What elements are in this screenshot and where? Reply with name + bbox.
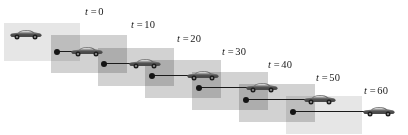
origin-dot-icon (196, 85, 202, 91)
origin-dot-icon (149, 73, 155, 79)
car-icon (362, 105, 396, 118)
car-icon (303, 93, 337, 106)
equals-sign: = (135, 19, 144, 30)
equals-sign: = (272, 59, 281, 70)
car-icon (9, 28, 43, 41)
time-label: t=20 (177, 33, 201, 44)
displacement-measure (243, 96, 311, 103)
time-value: 0 (98, 6, 103, 17)
time-label: t=40 (268, 59, 292, 70)
equals-sign: = (226, 46, 235, 57)
time-label: t=60 (364, 85, 388, 96)
time-value: 40 (281, 59, 292, 70)
equals-sign: = (181, 33, 190, 44)
car-icon (245, 81, 279, 94)
time-value: 60 (377, 85, 388, 96)
displacement-measure (290, 108, 368, 115)
equals-sign: = (368, 85, 377, 96)
car-icon (70, 45, 104, 58)
time-label: t=30 (222, 46, 246, 57)
origin-dot-icon (243, 97, 249, 103)
displacement-line (246, 99, 311, 100)
equals-sign: = (89, 6, 98, 17)
time-value: 10 (144, 19, 155, 30)
car-icon (186, 69, 220, 82)
time-value: 50 (329, 72, 340, 83)
origin-dot-icon (290, 109, 296, 115)
origin-dot-icon (54, 49, 60, 55)
time-label: t=10 (131, 19, 155, 30)
time-label: t=0 (85, 6, 104, 17)
time-label: t=50 (316, 72, 340, 83)
time-value: 20 (190, 33, 201, 44)
time-value: 30 (235, 46, 246, 57)
equals-sign: = (320, 72, 329, 83)
car-icon (128, 57, 162, 70)
displacement-line (293, 111, 368, 112)
origin-dot-icon (101, 61, 107, 67)
motion-diagram-figure: t=0t=10t=20t=30t=40t=50t=60 (0, 0, 408, 135)
